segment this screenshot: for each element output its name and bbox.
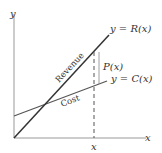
profit-label: P(x): [102, 61, 123, 72]
revenue-inline-label: Revenue: [53, 50, 86, 84]
revenue-cost-diagram: y x x y = R(x) y = C(x) P(x) Revenue Cos…: [0, 0, 162, 153]
cost-inline-label: Cost: [59, 92, 81, 108]
y-axis-label: y: [9, 8, 16, 19]
x-tick-label: x: [91, 141, 97, 152]
revenue-label: y = R(x): [109, 23, 151, 34]
cost-label: y = C(x): [110, 73, 153, 84]
x-axis-label: x: [145, 132, 151, 143]
revenue-line: [14, 35, 109, 138]
